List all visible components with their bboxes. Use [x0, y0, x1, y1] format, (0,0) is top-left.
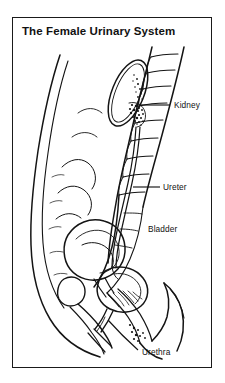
bladder: [97, 267, 148, 312]
label-ureter: Ureter: [163, 182, 187, 192]
kidney-stipple-upper: [132, 74, 142, 100]
leader-line-urethra: [108, 320, 138, 350]
label-kidney: Kidney: [174, 100, 200, 110]
body-outline: [31, 55, 100, 357]
label-urethra: Urethra: [142, 347, 170, 357]
label-bladder: Bladder: [148, 224, 177, 234]
anatomical-illustration: [12, 17, 212, 368]
urethra: [95, 309, 113, 332]
vertebral-column: [94, 47, 184, 293]
abdominal-contents: [49, 109, 102, 276]
